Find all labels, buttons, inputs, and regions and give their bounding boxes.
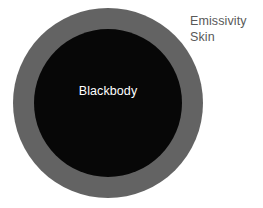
annotation-line-2: Skin — [190, 29, 247, 45]
annotation-line-1: Emissivity — [190, 13, 247, 29]
blackbody-core — [34, 29, 182, 177]
emissivity-skin-annotation: Emissivity Skin — [190, 13, 247, 45]
diagram-canvas: Blackbody Emissivity Skin — [0, 0, 263, 208]
blackbody-label: Blackbody — [34, 84, 182, 99]
